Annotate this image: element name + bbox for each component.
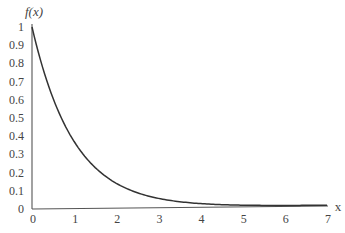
y-tick-label: 0.2 (9, 166, 24, 180)
y-axis-label: f(x) (25, 4, 43, 19)
x-axis (32, 206, 328, 209)
y-tick-label: 1 (18, 20, 24, 34)
y-tick-label: 0.8 (9, 56, 24, 70)
x-tick-label: 1 (72, 212, 78, 226)
x-tick-label: 7 (325, 212, 331, 226)
x-tick-label: 0 (30, 212, 36, 226)
x-tick-label: 3 (156, 212, 162, 226)
y-tick-label: 0.7 (9, 75, 24, 89)
y-tick-label: 0.5 (9, 111, 24, 125)
x-tick-label: 4 (199, 212, 205, 226)
x-axis-label: x (335, 199, 342, 214)
x-tick-labels: 01234567 (30, 212, 331, 226)
y-tick-label: 0.4 (9, 129, 24, 143)
y-tick-labels: 00.10.20.30.40.50.60.70.80.91 (9, 20, 24, 216)
y-tick-label: 0.6 (9, 93, 24, 107)
exponential-density-chart: f(x) x 00.10.20.30.40.50.60.70.80.91 012… (0, 0, 345, 233)
y-tick-label: 0.9 (9, 38, 24, 52)
y-tick-label: 0 (18, 202, 24, 216)
density-curve (32, 27, 327, 205)
x-tick-label: 2 (114, 212, 120, 226)
y-tick-label: 0.1 (9, 184, 24, 198)
x-tick-label: 6 (283, 212, 289, 226)
y-tick-label: 0.3 (9, 147, 24, 161)
x-tick-label: 5 (241, 212, 247, 226)
